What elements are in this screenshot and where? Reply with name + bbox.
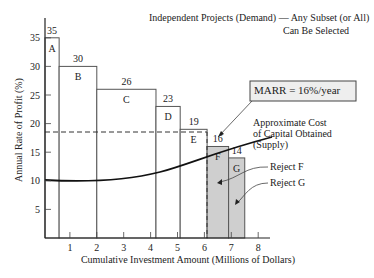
marr-arrow — [218, 101, 252, 137]
bar-value-b: 30 — [73, 53, 83, 64]
reject-g-label: Reject G — [270, 177, 305, 188]
x-tick-label: 6 — [202, 242, 207, 253]
x-tick-label: 2 — [94, 242, 99, 253]
x-tick-label: 4 — [148, 242, 153, 253]
bar-value-c: 26 — [121, 76, 131, 87]
bar-b — [59, 66, 97, 238]
x-tick-label: 3 — [121, 242, 126, 253]
y-tick-label: 25 — [30, 90, 40, 101]
x-axis-label: Cumulative Investment Amount (Millions o… — [81, 254, 295, 266]
bar-label-c: C — [123, 94, 130, 105]
bar-label-d: D — [164, 111, 171, 122]
y-axis-label: Annual Rate of Profit (%) — [13, 78, 25, 182]
bar-label-b: B — [75, 71, 82, 82]
marr-label: MARR = 16%/year — [254, 85, 340, 96]
y-tick-label: 20 — [30, 118, 40, 129]
x-tick-label: 8 — [256, 242, 261, 253]
chart-canvas: 35A30B26C23D19E16F14G 5101520253035 1234… — [0, 0, 374, 278]
x-tick-label: 5 — [175, 242, 180, 253]
supply-label-line3: (Supply) — [253, 139, 288, 150]
bars: 35A30B26C23D19E16F14G — [45, 25, 245, 238]
bar-label-g: G — [233, 163, 240, 174]
bar-e — [180, 129, 207, 238]
y-tick-label: 15 — [30, 147, 40, 158]
bar-value-e: 19 — [189, 116, 199, 127]
chart-title-line2: Can Be Selected — [283, 25, 349, 36]
supply-label-line2: of Capital Obtained — [253, 128, 332, 139]
supply-label-line1: Approximate Cost — [253, 117, 327, 128]
reject-f-label: Reject F — [270, 161, 304, 172]
bar-value-d: 23 — [163, 93, 173, 104]
bar-label-a: A — [48, 43, 56, 54]
bar-value-a: 35 — [47, 25, 57, 36]
chart-title-line1: Independent Projects (Demand) — Any Subs… — [149, 12, 369, 23]
x-tick-label: 7 — [229, 242, 234, 253]
bar-a — [45, 38, 59, 238]
y-tick-label: 35 — [30, 32, 40, 43]
bar-label-e: E — [191, 134, 197, 145]
x-tick-label: 1 — [67, 242, 72, 253]
y-tick-label: 5 — [35, 204, 40, 215]
y-tick-label: 10 — [30, 175, 40, 186]
bar-c — [97, 89, 156, 238]
y-tick-label: 30 — [30, 61, 40, 72]
